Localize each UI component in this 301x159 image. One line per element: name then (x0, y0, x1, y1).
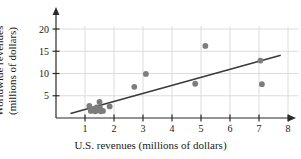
data-point (97, 99, 103, 105)
data-point (258, 58, 264, 64)
data-point (202, 43, 208, 49)
y-tick-label: 15 (39, 46, 49, 57)
y-axis-title-line2: (millions of dollars) (6, 27, 18, 115)
x-tick-label: 8 (286, 123, 291, 134)
x-tick-label: 5 (199, 123, 204, 134)
x-tick-label: 6 (228, 123, 233, 134)
data-point (107, 104, 113, 110)
y-axis-title: Worldwide revenues (millions of dollars) (0, 11, 19, 131)
x-axis-title: U.S. revenues (millions of dollars) (0, 139, 301, 151)
data-point (100, 108, 106, 114)
y-tick-label: 5 (44, 90, 49, 101)
x-tick-label: 7 (257, 123, 262, 134)
data-point (131, 84, 137, 90)
y-tick-label: 20 (39, 24, 49, 35)
data-point (192, 81, 198, 87)
data-point (143, 71, 149, 77)
x-tick-label: 4 (170, 123, 175, 134)
plot-canvas: 123456785101520 (0, 0, 301, 159)
grid-lines (56, 26, 298, 118)
y-axis-arrowhead (53, 7, 60, 15)
x-tick-label: 2 (112, 123, 117, 134)
data-points (86, 43, 264, 114)
x-axis-arrowhead (288, 115, 296, 122)
y-axis-title-line1: Worldwide revenues (0, 26, 5, 116)
y-tick-label: 10 (39, 68, 49, 79)
scatter-plot-figure: 123456785101520 Worldwide revenues (mill… (0, 0, 301, 159)
x-tick-label: 1 (83, 123, 88, 134)
x-tick-label: 3 (141, 123, 146, 134)
trend-line (71, 55, 281, 113)
data-point (259, 81, 265, 87)
